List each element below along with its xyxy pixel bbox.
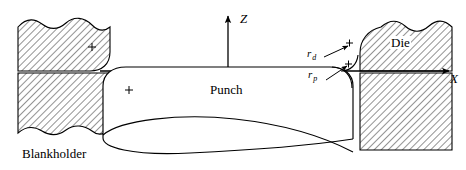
punch-label: Punch [210, 83, 243, 96]
z-axis-label: Z [240, 12, 247, 25]
die-radius-subscript: d [312, 53, 316, 62]
blankholder-block [18, 73, 110, 135]
blankholder-label: Blankholder [22, 147, 86, 160]
x-axis-label: X [450, 72, 458, 85]
upper-left-tool-block [18, 18, 110, 71]
die-radius-label: rd [307, 48, 315, 59]
die-label: Die [390, 36, 411, 49]
punch-radius-subscript: p [313, 74, 317, 83]
die-block-lower [360, 73, 452, 150]
die-radius-symbol: r [307, 47, 311, 59]
punch-radius-label: rp [308, 69, 316, 80]
die-radius-leader [324, 46, 348, 57]
center-mark-die-radius [346, 40, 353, 47]
figure-canvas: Z X Punch Die Blankholder rd rp [0, 0, 466, 170]
punch-radius-symbol: r [308, 68, 312, 80]
